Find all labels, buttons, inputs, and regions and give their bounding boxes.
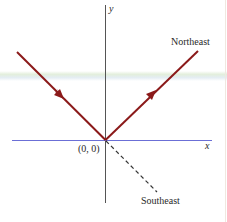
y-axis-label: y	[109, 4, 113, 14]
page-edge	[225, 0, 226, 222]
reflection-diagram: y Northeast (0, 0) x Southeast	[0, 0, 227, 222]
southeast-dashed-path	[106, 141, 157, 192]
southeast-label: Southeast	[141, 196, 180, 206]
northeast-label: Northeast	[171, 37, 210, 47]
diagram-canvas	[0, 0, 227, 222]
origin-label: (0, 0)	[78, 144, 100, 154]
x-axis-label: x	[205, 141, 209, 151]
